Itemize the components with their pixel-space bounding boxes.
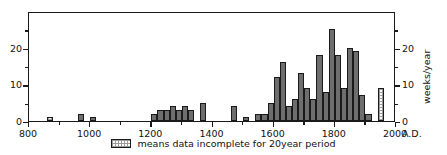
y-left-tick-major (23, 49, 28, 50)
y-left-tick-major (23, 122, 28, 123)
bar (243, 117, 249, 121)
x-tick-major (334, 122, 335, 127)
y-left-tick-minor (25, 104, 28, 105)
bar (188, 110, 194, 121)
chart-figure: 8001000120014001600180020000102001020 A.… (0, 0, 447, 155)
right-axis-title: weeks/year (422, 50, 432, 104)
y-right-tick-label: 0 (402, 117, 408, 127)
y-left-tick-label: 0 (4, 117, 22, 127)
bar (231, 106, 237, 121)
x-tick-major (89, 122, 90, 127)
bars-layer (29, 13, 394, 121)
y-left-tick-major (23, 85, 28, 86)
x-tick-minor (364, 122, 365, 125)
bar (365, 114, 371, 121)
y-right-tick-label: 10 (402, 80, 414, 90)
y-right-tick-minor (395, 67, 398, 68)
x-tick-major (28, 122, 29, 127)
bar (78, 114, 84, 121)
y-right-tick-minor (395, 30, 398, 31)
x-tick-minor (59, 122, 60, 125)
y-left-tick-minor (25, 30, 28, 31)
y-right-tick-major (395, 85, 400, 86)
y-left-tick-label: 10 (4, 80, 22, 90)
y-right-tick-major (395, 49, 400, 50)
bar (90, 117, 96, 121)
x-tick-major (150, 122, 151, 127)
y-right-tick-major (395, 122, 400, 123)
x-tick-minor (303, 122, 304, 125)
bar (200, 103, 206, 121)
bar (378, 88, 384, 121)
y-left-tick-minor (25, 67, 28, 68)
legend-swatch-incomplete (111, 139, 131, 148)
y-right-tick-label: 20 (402, 44, 414, 54)
bar (47, 117, 53, 121)
plot-area (28, 12, 395, 122)
y-right-tick-minor (395, 104, 398, 105)
legend-label-incomplete: means data incomplete for 20year period (137, 138, 335, 149)
y-left-tick-label: 20 (4, 44, 22, 54)
x-tick-minor (120, 122, 121, 125)
x-tick-major (212, 122, 213, 127)
x-tick-minor (181, 122, 182, 125)
x-tick-major (273, 122, 274, 127)
x-tick-minor (242, 122, 243, 125)
chart-legend: means data incomplete for 20year period (0, 138, 447, 149)
